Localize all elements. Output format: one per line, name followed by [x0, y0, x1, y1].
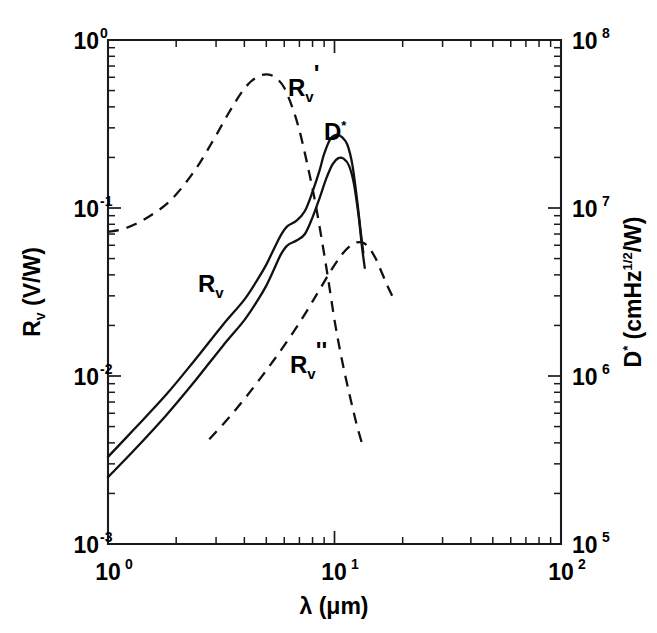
- x-tick-label-1e0-mantissa: 10: [95, 559, 121, 585]
- y-axis-title-symbol: R: [19, 320, 45, 337]
- y-tick-label-1e-3-exponent: -3: [100, 529, 113, 545]
- x-tick-label-1e0-exponent: 0: [125, 556, 133, 572]
- y2-axis-title-text: D* (cmHz1/2/W): [620, 217, 646, 368]
- y2-tick-label-1e5-exponent: 5: [602, 529, 610, 545]
- y2-axis-title: D* (cmHz1/2/W): [620, 217, 646, 368]
- y2-tick-label-1e6-mantissa: 10: [572, 364, 598, 390]
- annotation-rv-prime-mark: ': [314, 60, 320, 87]
- figure-container: 10 0 10 -1 10 -2 10 -3 10 8 10 7 10 6 10…: [0, 0, 657, 633]
- annotation-rv-dp-subscript: v: [307, 365, 316, 382]
- spectral-response-chart: 10 0 10 -1 10 -2 10 -3 10 8 10 7 10 6 10…: [0, 0, 657, 633]
- y-tick-label-1e-1-mantissa: 10: [73, 196, 99, 222]
- x-tick-label-1e1-exponent: 1: [351, 556, 359, 572]
- annotation-rv-prime-symbol: R: [288, 74, 305, 101]
- y-axis-title-text: Rv (V/W): [19, 247, 48, 337]
- y-tick-label-1e-2-mantissa: 10: [73, 364, 99, 390]
- x-tick-label-1e2-exponent: 2: [578, 556, 586, 572]
- x-axis-title-units: (μm): [319, 593, 369, 619]
- x-axis-title: λ (μm): [299, 593, 368, 619]
- y2-axis-title-units-exponent: 1/2: [620, 252, 635, 270]
- y2-tick-label-1e7-mantissa: 10: [572, 196, 598, 222]
- y-tick-label-1e-3-mantissa: 10: [73, 532, 99, 558]
- y-tick-label-1e0-exponent: 0: [100, 25, 108, 41]
- annotation-rv-subscript: v: [215, 284, 224, 301]
- annotation-rv-symbol: R: [198, 270, 215, 297]
- annotation-rv-dp-mark: '': [316, 337, 327, 364]
- y2-tick-label-1e5-mantissa: 10: [572, 532, 598, 558]
- y-axis-title-subscript: v: [32, 312, 48, 320]
- annotation-rv-prime-subscript: v: [305, 88, 314, 105]
- x-axis-title-symbol: λ: [299, 593, 312, 619]
- y-axis-title-units: (V/W): [19, 247, 45, 306]
- y2-tick-label-1e8-exponent: 8: [602, 25, 610, 41]
- y2-tick-label-1e8-mantissa: 10: [572, 28, 598, 54]
- y2-tick-label-1e7-exponent: 7: [602, 193, 610, 209]
- y-tick-label-1e-1-exponent: -1: [100, 193, 113, 209]
- annotation-d-star-symbol: D: [324, 118, 341, 145]
- y-tick-label-1e0-mantissa: 10: [73, 28, 99, 54]
- x-axis-title-text: λ (μm): [299, 593, 368, 619]
- y-axis-title: Rv (V/W): [19, 247, 48, 337]
- annotation-rv-dp-symbol: R: [290, 351, 307, 378]
- y-tick-label-1e-2-exponent: -2: [100, 361, 113, 377]
- y2-axis-title-symbol: D: [620, 351, 646, 368]
- y2-axis-title-units-pre: (cmHz: [620, 270, 646, 339]
- y2-tick-label-1e6-exponent: 6: [602, 361, 610, 377]
- x-tick-label-1e1-mantissa: 10: [321, 559, 347, 585]
- y2-axis-title-units-post: /W): [620, 217, 646, 253]
- x-tick-label-1e2-mantissa: 10: [548, 559, 574, 585]
